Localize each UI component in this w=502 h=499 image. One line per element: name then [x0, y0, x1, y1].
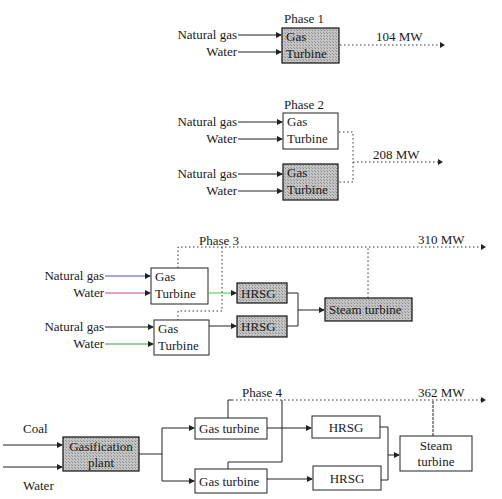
input-natural-gas-bottom: Natural gas — [177, 166, 237, 181]
steam-turbine-label-2: turbine — [418, 454, 455, 469]
phase-4-title: Phase 4 — [242, 385, 283, 400]
merge-dotted-line — [339, 132, 353, 182]
output-362mw: 362 MW — [418, 385, 465, 400]
gas-turbine-top-label-2: Turbine — [155, 286, 196, 301]
input-water-bottom: Water — [206, 183, 237, 198]
gas-turbine-top-label: Gas turbine — [199, 421, 260, 436]
hrsg-top-label: HRSG — [241, 286, 276, 301]
output-104mw: 104 MW — [376, 29, 423, 44]
steam-turbine-label: Steam turbine — [329, 302, 402, 317]
phase-3-title: Phase 3 — [199, 233, 239, 248]
output-208mw: 208 MW — [373, 147, 420, 162]
gas-turbine-bottom-label-1: Gas — [287, 165, 307, 180]
output-arrowhead-icon — [481, 244, 486, 250]
gas-turbine-bottom-label-2: Turbine — [158, 338, 199, 353]
input-water-top: Water — [73, 285, 104, 300]
gas-turbine-label-1: Gas — [286, 29, 306, 44]
input-water: Water — [23, 478, 54, 493]
output-arrowhead-icon — [438, 159, 443, 165]
gas-turbine-top-label-1: Gas — [287, 114, 307, 129]
output-arrowhead-icon — [481, 397, 486, 403]
gas-turbine-top-label-2: Turbine — [287, 131, 328, 146]
gt-top-link — [228, 400, 232, 418]
input-natural-gas-top: Natural gas — [44, 268, 104, 283]
gas-turbine-top-label-1: Gas — [155, 269, 175, 284]
output-arrowhead-icon — [440, 42, 445, 48]
phase-diagram: Phase 1 Natural gas Water Gas Turbine 10… — [0, 0, 502, 499]
input-natural-gas-bottom: Natural gas — [44, 319, 104, 334]
gas-turbine-bottom-label-1: Gas — [158, 321, 178, 336]
gas-turbine-label-2: Turbine — [286, 46, 327, 61]
hrsg-bottom-label: HRSG — [241, 319, 276, 334]
input-natural-gas-top: Natural gas — [177, 114, 237, 129]
input-water-bottom: Water — [73, 336, 104, 351]
phase-2: Phase 2 Natural gas Water Gas Turbine Na… — [177, 97, 443, 200]
hrsg-top-label: HRSG — [329, 420, 364, 435]
phase-2-title: Phase 2 — [284, 97, 324, 112]
phase-3: Phase 3 Natural gas Water Gas Turbine Na… — [44, 232, 486, 355]
output-310mw: 310 MW — [418, 232, 465, 247]
gas-turbine-bottom-label: Gas turbine — [199, 474, 260, 489]
phase-4: Coal Water Gasification plant Gas turbin… — [3, 385, 486, 493]
gasification-label-1: Gasification — [69, 439, 133, 454]
gas-turbine-bottom-label-2: Turbine — [287, 182, 328, 197]
input-water-top: Water — [206, 131, 237, 146]
input-natural-gas: Natural gas — [177, 27, 237, 42]
input-coal: Coal — [23, 421, 48, 436]
hrsg-bottom-label: HRSG — [330, 471, 365, 486]
gasification-label-2: plant — [88, 455, 114, 470]
input-water: Water — [206, 44, 237, 59]
output-dotted-line — [178, 247, 483, 268]
steam-turbine-label-1: Steam — [420, 438, 453, 453]
phase-1: Phase 1 Natural gas Water Gas Turbine 10… — [177, 11, 445, 63]
hrsg-merge-line — [287, 293, 298, 326]
phase-1-title: Phase 1 — [284, 11, 324, 26]
